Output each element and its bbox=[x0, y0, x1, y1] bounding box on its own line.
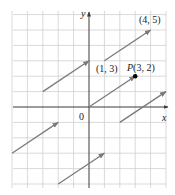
point-p-coords: (3, 2) bbox=[133, 62, 155, 74]
labels: y x 0 (4, 5) (1, 3) P(3, 2) bbox=[79, 8, 167, 123]
origin-label: 0 bbox=[79, 111, 84, 122]
x-axis-label: x bbox=[161, 112, 167, 123]
label-4-5: (4, 5) bbox=[139, 14, 161, 26]
coordinate-plane: y x 0 (4, 5) (1, 3) P(3, 2) bbox=[0, 0, 175, 195]
y-axis-label: y bbox=[80, 8, 86, 19]
point-p-label: P(3, 2) bbox=[126, 62, 155, 74]
point-p-dot bbox=[133, 74, 138, 79]
point-p-name: P bbox=[126, 62, 133, 73]
label-1-3: (1, 3) bbox=[96, 63, 118, 75]
axes bbox=[13, 12, 168, 188]
